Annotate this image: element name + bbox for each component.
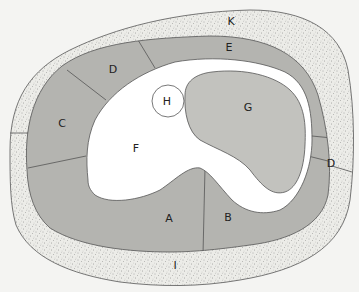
- label-E: E: [226, 41, 233, 54]
- label-A: A: [165, 212, 173, 225]
- label-B: B: [224, 211, 232, 224]
- label-K: K: [227, 15, 235, 28]
- diagram-stage: K E D C H G F D A B I: [0, 0, 359, 292]
- label-I: I: [173, 259, 176, 272]
- label-D-right: D: [327, 157, 335, 170]
- cross-section-diagram: K E D C H G F D A B I: [0, 0, 359, 292]
- label-D-upper: D: [109, 63, 117, 76]
- label-H: H: [163, 95, 171, 108]
- label-G: G: [244, 101, 253, 114]
- label-F: F: [133, 142, 139, 155]
- label-C: C: [58, 117, 66, 130]
